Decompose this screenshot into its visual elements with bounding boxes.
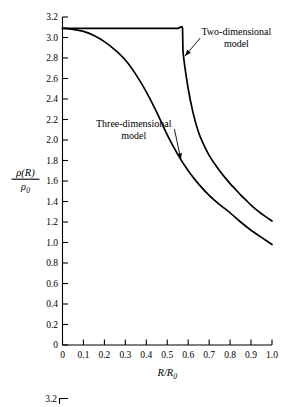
y-tick-label: 2.0: [46, 135, 58, 145]
x-tick-label: 0.9: [245, 350, 257, 360]
y-tick-label: 0.6: [46, 279, 58, 289]
y-axis-title-numerator: ρ(R): [15, 167, 35, 179]
y-tick-label: 1.0: [46, 238, 58, 248]
y-tick-label: 3.2: [46, 12, 58, 22]
axis-frame: [63, 17, 273, 345]
y-axis-ticks: 00.20.40.60.81.01.21.41.61.82.02.22.42.6…: [46, 12, 68, 350]
y-tick-label: 3.0: [46, 33, 58, 43]
x-axis-title-subscript: 0: [173, 372, 177, 381]
x-tick-label: 0.3: [119, 350, 131, 360]
y-tick-label: 1.8: [46, 156, 58, 166]
fragment-tick-label: 3.2: [45, 394, 57, 404]
y-tick-label: 1.4: [46, 197, 58, 207]
x-tick-label: 0: [60, 350, 65, 360]
two-dimensional-model-label-line1: Two-dimensional: [201, 26, 271, 37]
y-tick-label: 0.2: [46, 320, 58, 330]
two-dimensional-model-label-line2: model: [224, 38, 249, 49]
fragment-axis-corner: [60, 399, 69, 405]
next-figure-fragment: 3.2: [45, 394, 68, 404]
three-dimensional-model-label-line1: Three-dimensional: [96, 118, 172, 129]
y-axis-title-subscript: 0: [26, 186, 30, 195]
plot-axes: [63, 17, 273, 345]
density-ratio-chart: 00.20.40.60.81.01.21.41.61.82.02.22.42.6…: [0, 0, 296, 407]
curve-annotations: Two-dimensionalmodelThree-dimensionalmod…: [96, 26, 272, 159]
x-tick-label: 0.8: [224, 350, 236, 360]
y-tick-label: 2.6: [46, 74, 58, 84]
x-tick-label: 1.0: [266, 350, 278, 360]
x-tick-label: 0.4: [140, 350, 152, 360]
x-tick-label: 0.7: [203, 350, 215, 360]
x-tick-label: 0.1: [78, 350, 90, 360]
x-tick-label: 0.2: [98, 350, 110, 360]
y-axis-title: ρ(R) ρ0: [12, 167, 40, 195]
x-axis-title-text: R/R0: [157, 367, 178, 381]
figure-container: 00.20.40.60.81.01.21.41.61.82.02.22.42.6…: [0, 0, 296, 407]
x-tick-label: 0.5: [161, 350, 173, 360]
y-tick-label: 2.2: [46, 115, 58, 125]
y-tick-label: 0: [53, 340, 58, 350]
x-axis-title: R/R0: [157, 367, 178, 381]
y-tick-label: 0.4: [46, 299, 58, 309]
y-tick-label: 1.6: [46, 176, 58, 186]
data-curves: [63, 27, 273, 245]
three-dimensional-model-label-line2: model: [121, 130, 146, 141]
curve-three-dimensional-model: [63, 28, 273, 244]
x-tick-label: 0.6: [182, 350, 194, 360]
y-axis-title-denominator: ρ0: [20, 181, 30, 195]
x-axis-ticks: 00.10.20.30.40.50.60.70.80.91.0: [60, 340, 278, 360]
y-tick-label: 2.8: [46, 53, 58, 63]
y-tick-label: 2.4: [46, 94, 58, 104]
y-tick-label: 0.8: [46, 258, 58, 268]
y-tick-label: 1.2: [46, 217, 58, 227]
